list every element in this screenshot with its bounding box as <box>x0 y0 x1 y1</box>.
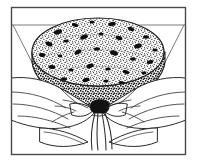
pudding-top-surface <box>32 18 164 86</box>
illustration-figure: Two hands gathering a pudding cloth arou… <box>0 0 197 165</box>
string-knot <box>90 100 109 113</box>
pudding-cloth-illustration <box>0 0 197 165</box>
